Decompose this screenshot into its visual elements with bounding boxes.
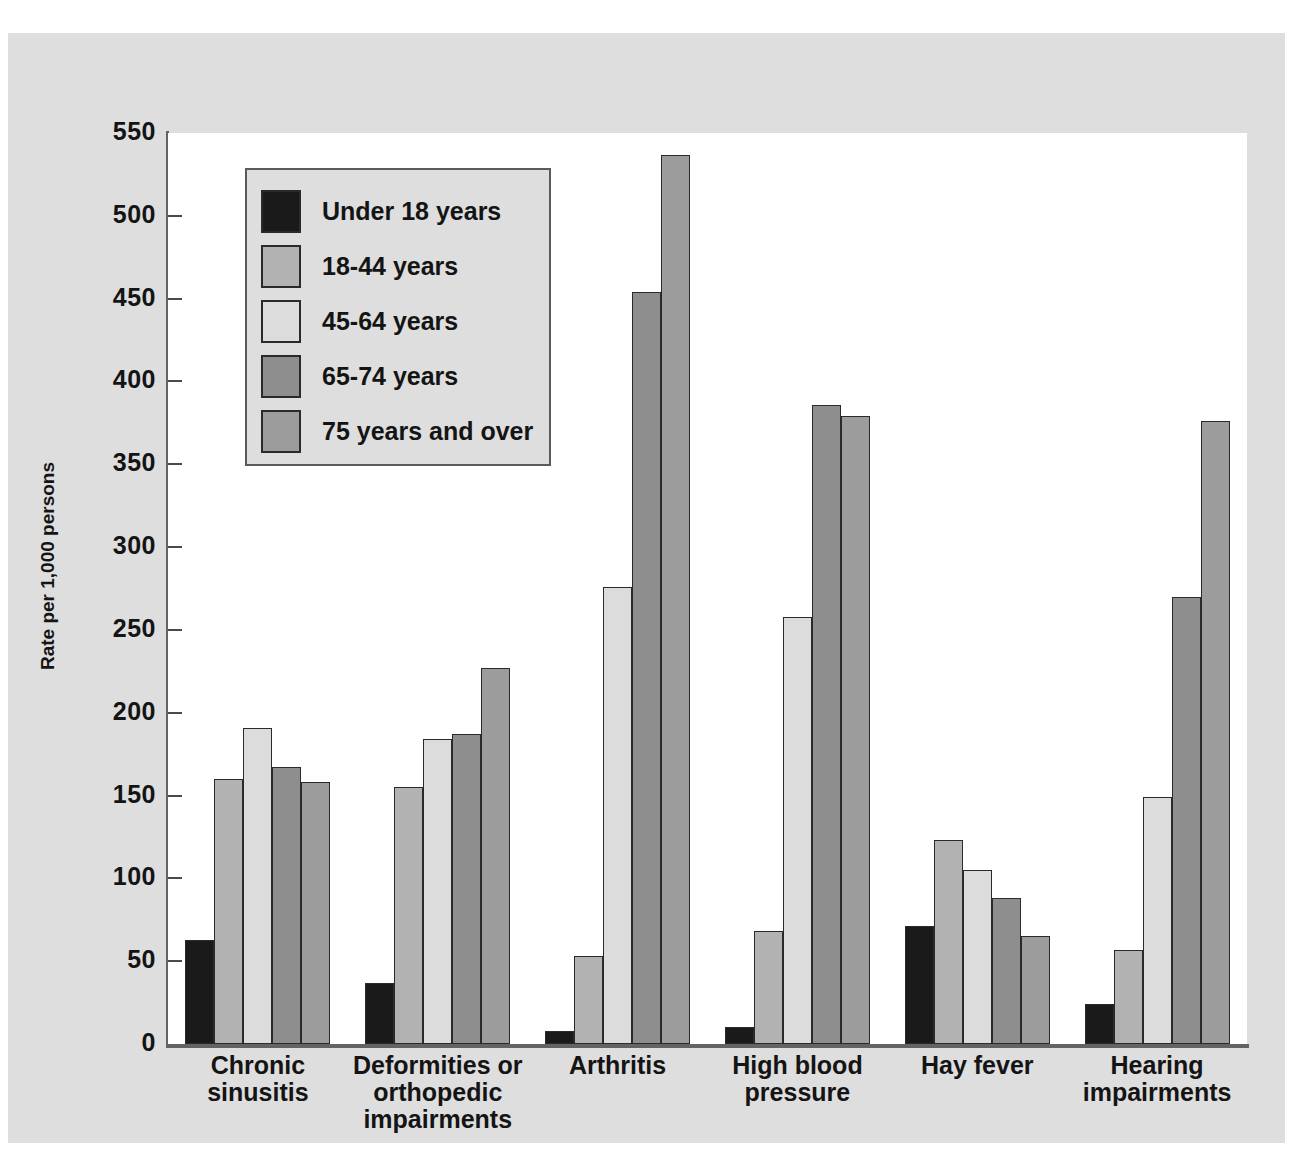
bar <box>632 292 661 1044</box>
bar <box>1114 950 1143 1044</box>
bar <box>365 983 394 1044</box>
y-axis-tick-label: 450 <box>96 283 156 312</box>
bar <box>574 956 603 1044</box>
bar <box>754 931 783 1044</box>
legend-item-label: 75 years and over <box>322 417 533 446</box>
bar <box>423 739 452 1044</box>
y-axis-tick-label: 550 <box>96 117 156 146</box>
y-axis-tick-label: 150 <box>96 780 156 809</box>
bar <box>725 1027 754 1044</box>
bar <box>214 779 243 1044</box>
legend-swatch-icon <box>261 300 301 343</box>
y-axis-tick <box>168 546 182 548</box>
y-axis-tick-label: 100 <box>96 862 156 891</box>
legend-item: 75 years and over <box>261 404 549 459</box>
legend-swatch-icon <box>261 190 301 233</box>
x-axis-category-label: Hearingimpairments <box>1032 1052 1282 1106</box>
legend-item-label: 18-44 years <box>322 252 458 281</box>
y-axis-tick <box>168 629 182 631</box>
legend-swatch-icon <box>261 245 301 288</box>
y-axis-tick <box>168 877 182 879</box>
bar <box>243 728 272 1044</box>
bar <box>545 1031 574 1044</box>
bar <box>934 840 963 1044</box>
bar <box>963 870 992 1044</box>
y-axis-tick <box>168 298 182 300</box>
y-axis-tick-label: 350 <box>96 448 156 477</box>
y-axis-tick <box>168 215 182 217</box>
bar <box>992 898 1021 1044</box>
legend-item: 45-64 years <box>261 294 549 349</box>
x-axis-category-label-line: pressure <box>672 1079 922 1106</box>
legend-item: 65-74 years <box>261 349 549 404</box>
legend: Under 18 years18-44 years45-64 years65-7… <box>245 168 551 466</box>
y-axis-tick <box>168 960 182 962</box>
bar <box>1085 1004 1114 1044</box>
x-axis-category-label-line: impairments <box>1032 1079 1282 1106</box>
x-axis-category-label-line: impairments <box>313 1106 563 1133</box>
y-axis-tick-label: 50 <box>96 945 156 974</box>
bar <box>812 405 841 1044</box>
bar <box>661 155 690 1044</box>
y-axis-tick-label: 250 <box>96 614 156 643</box>
y-axis-tick-label: 400 <box>96 365 156 394</box>
y-axis-tick-label: 300 <box>96 531 156 560</box>
legend-item-label: 65-74 years <box>322 362 458 391</box>
bar <box>185 940 214 1044</box>
y-axis-tick <box>168 795 182 797</box>
legend-item: Under 18 years <box>261 184 549 239</box>
y-axis-tick-label: 200 <box>96 697 156 726</box>
y-axis-tick-labels: 050100150200250300350400450500550 <box>96 0 156 1151</box>
bar <box>301 782 330 1044</box>
bar <box>841 416 870 1044</box>
x-axis-category-label-line: orthopedic <box>313 1079 563 1106</box>
bar <box>1201 421 1230 1044</box>
legend-item: 18-44 years <box>261 239 549 294</box>
bar <box>905 926 934 1044</box>
legend-item-label: 45-64 years <box>322 307 458 336</box>
bar <box>272 767 301 1044</box>
y-axis-tick <box>168 380 182 382</box>
bar <box>783 617 812 1044</box>
bar <box>603 587 632 1044</box>
bar <box>1172 597 1201 1044</box>
x-axis-category-label-line: Hearing <box>1032 1052 1282 1079</box>
chart-figure: Rate per 1,000 persons 05010015020025030… <box>0 0 1293 1151</box>
bar <box>481 668 510 1044</box>
bar <box>1143 797 1172 1044</box>
legend-swatch-icon <box>261 355 301 398</box>
bar <box>452 734 481 1044</box>
legend-item-label: Under 18 years <box>322 197 501 226</box>
legend-swatch-icon <box>261 410 301 453</box>
bar <box>1021 936 1050 1044</box>
x-axis-line <box>166 1044 1249 1048</box>
bar <box>394 787 423 1044</box>
y-axis-tick <box>168 463 182 465</box>
y-axis-tick-label: 500 <box>96 200 156 229</box>
y-axis-tick <box>168 712 182 714</box>
y-axis-title: Rate per 1,000 persons <box>37 456 59 676</box>
